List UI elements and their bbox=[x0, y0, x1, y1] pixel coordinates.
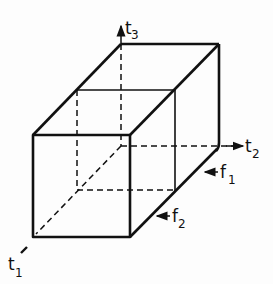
f2-label: f 2 bbox=[172, 206, 186, 231]
svg-text:2: 2 bbox=[252, 147, 260, 161]
svg-text:1: 1 bbox=[15, 266, 23, 280]
svg-text:t: t bbox=[8, 254, 15, 274]
svg-text:f: f bbox=[220, 162, 227, 182]
hidden-edges bbox=[36, 44, 234, 234]
svg-text:2: 2 bbox=[178, 217, 186, 231]
t1-label: t 1 bbox=[8, 254, 23, 280]
t2-label: t 2 bbox=[245, 136, 260, 161]
svg-text:3: 3 bbox=[131, 28, 139, 42]
f1-label: f 1 bbox=[220, 162, 236, 187]
svg-text:t: t bbox=[245, 136, 252, 156]
axis-arrows bbox=[21, 26, 243, 253]
box-solid-edges bbox=[33, 44, 219, 237]
box-diagram: t 3 t 2 t 1 f 1 f 2 bbox=[0, 0, 273, 284]
t1-arrow-icon bbox=[21, 247, 27, 253]
svg-text:1: 1 bbox=[228, 173, 236, 187]
t3-label: t 3 bbox=[125, 18, 139, 42]
